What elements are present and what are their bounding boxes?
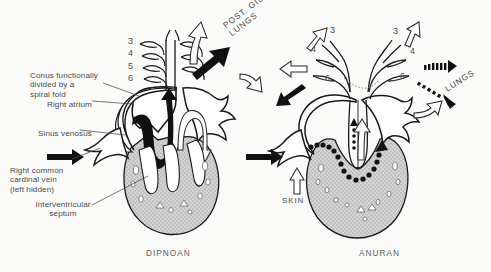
label-right-atrium: Right atrium bbox=[47, 100, 92, 109]
anuran-from-lungs-arrow bbox=[414, 101, 442, 118]
anuran-skin-arrow bbox=[290, 168, 304, 194]
anuran-systemic-arrow-left bbox=[280, 61, 307, 77]
arch-number-3-dipnoan: 3 bbox=[128, 36, 133, 46]
arch-number-4-dipnoan: 4 bbox=[128, 48, 133, 58]
arch-number-6-dipnoan: 6 bbox=[128, 73, 133, 83]
anuran-conus-beaded-arrow bbox=[350, 118, 358, 150]
arch-number-4-anuran-left: 4 bbox=[311, 44, 316, 54]
anuran-arches-right bbox=[368, 40, 409, 99]
label-conus-spiral-fold: Conus functionally divided by a spiral f… bbox=[30, 71, 120, 99]
label-interventricular-septum: Interventricular septum bbox=[27, 200, 99, 219]
dipnoan-return-arrow bbox=[240, 74, 262, 92]
anuran-carotid-arrow-left-upper bbox=[307, 28, 327, 51]
anuran-arches-left bbox=[313, 41, 350, 99]
anuran-ventricle bbox=[307, 138, 408, 238]
arch-number-6-anuran-left: 6 bbox=[325, 73, 330, 83]
anuran-panel bbox=[246, 22, 457, 238]
caption-anuran: ANURAN bbox=[359, 248, 400, 258]
anuran-right-atrium bbox=[362, 96, 419, 145]
dipnoan-venous-return-arrow bbox=[47, 149, 84, 165]
label-skin-anuran: SKIN bbox=[282, 196, 304, 205]
caption-dipnoan: DIPNOAN bbox=[146, 248, 191, 258]
label-right-common-cardinal-vein: Right common cardinal vein (left hidden) bbox=[10, 166, 84, 194]
arch-number-6-anuran-right: 6 bbox=[400, 71, 405, 81]
arch-number-5-dipnoan: 5 bbox=[128, 61, 133, 71]
arch-number-3-anuran-right: 3 bbox=[393, 26, 398, 36]
anuran-systemic-beaded-arrow-right bbox=[424, 60, 457, 73]
diagram-figure: Conus functionally divided by a spiral f… bbox=[0, 0, 491, 272]
anuran-pulmocutaneous-arrow-left bbox=[276, 84, 306, 106]
label-sinus-venosus: Sinus venosus bbox=[38, 129, 92, 138]
arch-number-3-anuran-left: 3 bbox=[330, 25, 335, 35]
anuran-carotid-arrow-right bbox=[405, 22, 420, 47]
arch-number-4-anuran-right: 4 bbox=[410, 46, 415, 56]
